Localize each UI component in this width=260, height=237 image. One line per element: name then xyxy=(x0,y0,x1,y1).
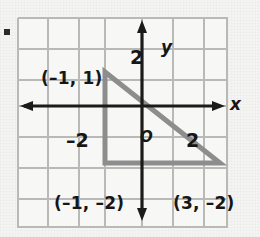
x-axis-label: x xyxy=(230,96,241,113)
x-axis-tick-label-neg2: –2 xyxy=(66,131,89,150)
coordinate-plane: (–1, 1) (–1, –2) (3, –2) 2 –2 2 y x O xyxy=(18,18,228,228)
y-axis-tick-label-2: 2 xyxy=(130,48,143,67)
vertex-label-b: (–1, –2) xyxy=(54,195,124,212)
y-axis-label: y xyxy=(161,39,172,56)
vertex-label-c: (3, –2) xyxy=(173,195,234,212)
figure-screenshot: (–1, 1) (–1, –2) (3, –2) 2 –2 2 y x O xyxy=(0,0,260,237)
triangle-shape xyxy=(105,72,220,163)
x-axis xyxy=(20,101,225,111)
x-axis-tick-label-2: 2 xyxy=(186,131,199,150)
vertex-label-a: (–1, 1) xyxy=(41,70,102,87)
problem-bullet-marker xyxy=(4,29,10,35)
origin-label: O xyxy=(140,130,153,145)
